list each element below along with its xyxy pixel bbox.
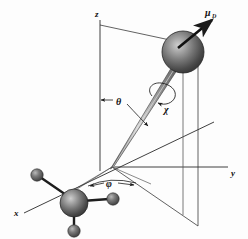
x-axis-label: x [13,208,19,218]
phi-leader-right [118,183,134,185]
dipole-moment-label: μ D [204,7,217,19]
molecular-orientation-diagram: θ χ φ z y x μ D [0,0,248,239]
ligand-lower-atom [68,225,80,237]
plane-bottom-edge [112,167,198,226]
theta-label: θ [116,96,122,107]
figure-canvas: θ χ φ z y x μ D [0,0,248,239]
phi-label: φ [106,178,112,189]
y-axis-label: y [230,168,236,178]
central-atom [60,189,88,217]
mu-subscript: D [211,13,217,19]
phi-angle-indicator [88,180,136,186]
ligand-right-atom [107,193,119,205]
mu-symbol: μ [204,7,211,18]
top-atom [162,31,204,73]
z-axis-label: z [94,9,99,19]
ligand-upper-left-atom [31,169,43,181]
chi-label: χ [162,104,169,115]
